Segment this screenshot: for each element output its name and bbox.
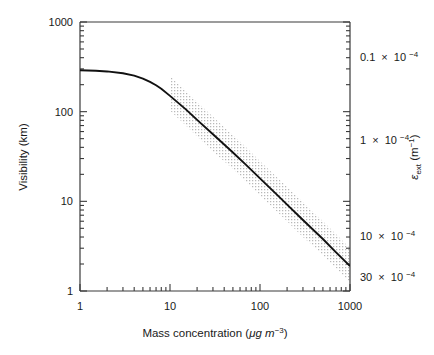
x-axis-title-mu: μg m [248, 327, 275, 339]
eext-base-1: 10 [385, 134, 397, 146]
eext-mantissa-0: 0.1 [360, 51, 375, 63]
eext-base-0: 10 [394, 51, 406, 63]
figure-root: 1000 100 10 1 1 10 100 1000 0.1 × 10 −4 … [0, 0, 434, 355]
eext-times-0: × [381, 51, 387, 63]
y-tick-label-1: 1 [67, 285, 73, 297]
eext-times-1: × [372, 134, 378, 146]
x-axis-title: Mass concentration (μg m−3) [142, 326, 287, 339]
eext-mantissa-2: 10 [360, 230, 372, 242]
eext-times-3: × [378, 271, 384, 283]
eext-base-3: 10 [391, 271, 403, 283]
y-axis-title: Visibility (km) [17, 123, 29, 191]
eext-exp-2: −4 [406, 229, 416, 238]
x-axis-title-close: ) [284, 327, 288, 339]
visibility-vs-mass-concentration-chart: 1000 100 10 1 1 10 100 1000 0.1 × 10 −4 … [0, 0, 434, 355]
x-tick-label-1: 1 [77, 300, 83, 312]
eext-base-2: 10 [391, 230, 403, 242]
eext-mantissa-1: 1 [360, 134, 366, 146]
x-tick-label-100: 100 [251, 300, 269, 312]
x-tick-label-1000: 1000 [338, 300, 362, 312]
x-tick-label-10: 10 [164, 300, 176, 312]
y-tick-label-100: 100 [55, 106, 73, 118]
eext-unit: (m [408, 147, 420, 164]
y-tick-label-10: 10 [61, 195, 73, 207]
eext-exp-3: −4 [406, 270, 416, 279]
y-tick-label-1000: 1000 [49, 16, 73, 28]
x-axis-title-main: Mass concentration ( [142, 327, 249, 339]
eext-exp-0: −4 [409, 50, 419, 59]
eext-unit-close: ) [408, 134, 420, 138]
eext-times-2: × [378, 230, 384, 242]
eext-mantissa-3: 30 [360, 271, 372, 283]
